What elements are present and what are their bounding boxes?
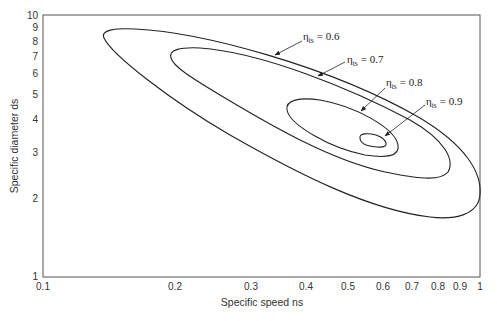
annotation-eta-0.9: ηts= 0.9 (385, 95, 463, 136)
y-tick: 4 (32, 114, 38, 125)
x-tick: 0.9 (453, 281, 467, 292)
y-tick: 2 (32, 193, 38, 204)
y-tick: 3 (32, 147, 38, 158)
y-tick: 6 (32, 68, 38, 79)
x-axis-label: Specific speed ns (221, 296, 303, 308)
contour-eta-0.8 (287, 99, 398, 157)
contour-eta-0.9 (360, 134, 386, 147)
x-tick: 0.1 (36, 281, 50, 292)
x-axis-ticks: 0.1 0.2 0.3 0.4 0.5 0.6 0.7 0.8 0.9 1 (36, 281, 483, 292)
x-tick: 0.6 (376, 281, 390, 292)
annotation-eta-0.7: ηts= 0.7 (318, 53, 384, 76)
y-tick: 9 (32, 22, 38, 33)
y-axis-label: Specific diameter ds (8, 99, 20, 194)
x-tick: 0.5 (341, 281, 355, 292)
svg-text:ηts= 0.7: ηts= 0.7 (347, 53, 384, 68)
svg-text:ηts= 0.6: ηts= 0.6 (303, 30, 340, 45)
svg-text:ηts= 0.9: ηts= 0.9 (426, 95, 463, 110)
y-tick: 10 (27, 10, 39, 21)
x-tick: 0.2 (168, 281, 182, 292)
y-tick: 5 (32, 89, 38, 100)
contour-eta-0.7 (171, 48, 451, 178)
y-axis-ticks: 1 2 3 4 5 6 7 8 9 10 (27, 10, 39, 282)
annotation-value: = 0.6 (317, 30, 340, 42)
plot-frame (43, 15, 480, 277)
x-tick: 1 (477, 281, 483, 292)
annotation-eta-0.6: ηts= 0.6 (275, 30, 340, 55)
contour-eta-0.6 (103, 29, 480, 218)
contour-curves (103, 29, 480, 218)
y-tick: 8 (32, 36, 38, 47)
svg-text:ηts= 0.8: ηts= 0.8 (386, 76, 423, 91)
x-tick: 0.7 (405, 281, 419, 292)
y-tick: 7 (32, 51, 38, 62)
x-tick: 0.3 (244, 281, 258, 292)
annotation-subscript: ts (309, 36, 314, 45)
x-tick: 0.8 (431, 281, 445, 292)
chart: 1 2 3 4 5 6 7 8 9 10 0.1 0.2 0.3 0.4 0.5… (0, 0, 497, 321)
annotation-eta-0.8: ηts= 0.8 (361, 76, 423, 111)
x-tick: 0.4 (299, 281, 313, 292)
